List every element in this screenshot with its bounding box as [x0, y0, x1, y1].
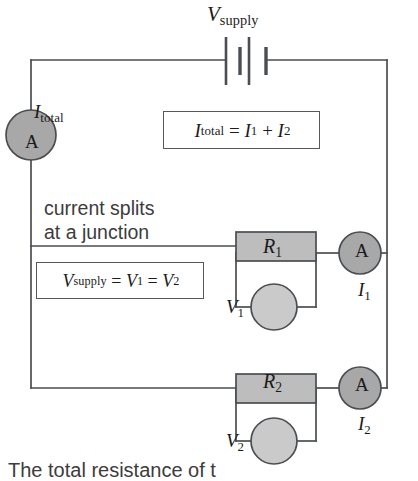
total-current-label: Itotal: [34, 101, 64, 126]
voltmeter-v2-icon: [251, 418, 297, 464]
resistor-r1-label: R1: [263, 235, 282, 261]
battery-icon: [226, 37, 266, 85]
ammeter-i2-letter: A: [355, 374, 369, 396]
voltmeter-v1-label: V1: [226, 296, 244, 321]
branch1-current-label: I1: [358, 279, 371, 304]
equation-box-voltage: Vsupply = V1 = V2: [36, 262, 204, 299]
equation-box-current: Itotal = I1 + I2: [163, 111, 320, 149]
circuit-diagram-page: Vsupply Itotal A Itotal = I1 + I2 curren…: [0, 0, 418, 481]
ammeter-total-letter: A: [25, 131, 39, 153]
voltmeter-v2-label: V2: [226, 430, 244, 455]
ammeter-i1-letter: A: [355, 240, 369, 262]
resistor-r2-label: R2: [263, 370, 282, 396]
branch2-current-label: I2: [358, 413, 371, 438]
supply-voltage-label: Vsupply: [207, 2, 258, 29]
voltmeter-v1-icon: [251, 284, 297, 330]
equation-voltage-text: Vsupply = V1 = V2: [37, 263, 205, 300]
equation-current-text: Itotal = I1 + I2: [164, 112, 321, 150]
current-split-annotation: current splitsat a junction: [44, 196, 155, 244]
bottom-caption: The total resistance of t: [8, 459, 216, 481]
